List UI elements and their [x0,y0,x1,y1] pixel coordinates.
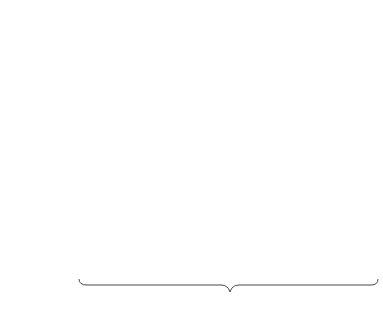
reversal-modes-diagram [0,0,383,318]
curly-brace [79,279,378,292]
